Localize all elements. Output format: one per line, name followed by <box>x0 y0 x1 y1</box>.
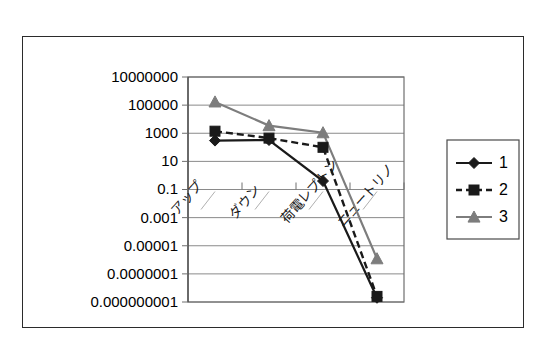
series-line <box>215 102 377 259</box>
x-axis-category-label: ダウン <box>225 182 263 222</box>
line-chart: 100000001000001000100.10.0010.000010.000… <box>0 0 547 364</box>
series-3 <box>209 96 383 264</box>
y-axis-tick-label: 1000 <box>145 124 178 141</box>
triangle-marker <box>371 253 383 264</box>
legend-label: 1 <box>499 154 508 171</box>
legend-label: 2 <box>499 181 508 198</box>
square-marker <box>318 142 328 152</box>
x-axis-category-label: 荷電レプトン <box>277 157 341 226</box>
y-axis-tick-label: 100000 <box>128 96 178 113</box>
y-axis-tick-label: 0.00001 <box>124 237 178 254</box>
chart-figure: 100000001000001000100.10.0010.000010.000… <box>0 0 547 364</box>
diamond-marker <box>210 135 221 146</box>
triangle-marker <box>209 96 221 107</box>
y-axis-ticks: 100000001000001000100.10.0010.000010.000… <box>90 68 188 310</box>
square-marker <box>469 185 479 195</box>
y-axis-tick-label: 10000000 <box>111 68 178 85</box>
y-axis-tick-label: 0.000000001 <box>90 293 178 310</box>
x-axis-category-label: ニュートリノ <box>333 161 397 230</box>
legend-label: 3 <box>499 208 508 225</box>
y-axis-tick-label: 0.1 <box>157 180 178 197</box>
chart-legend: 123 <box>447 140 519 239</box>
y-axis-tick-label: 10 <box>161 152 178 169</box>
y-axis-tick-label: 0.0000001 <box>107 265 178 282</box>
category-leader-line <box>201 192 215 210</box>
x-axis-category-labels: アップダウン荷電レプトンニュートリノ <box>167 157 397 230</box>
